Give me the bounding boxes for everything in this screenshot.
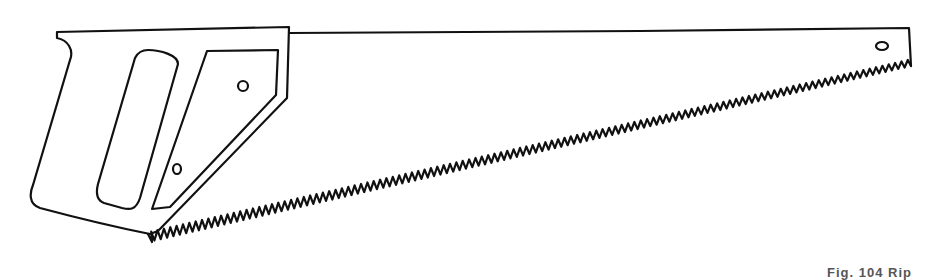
- handle-inner-panel: [152, 50, 278, 209]
- rivet-top: [238, 81, 248, 91]
- blade-teeth: [148, 60, 911, 242]
- figure-caption: Fig. 104 Rip: [827, 265, 912, 280]
- handle-grip-hole: [97, 50, 178, 209]
- rivet-bottom: [173, 164, 181, 174]
- blade-top-edge: [289, 28, 911, 66]
- blade-hole: [876, 42, 888, 50]
